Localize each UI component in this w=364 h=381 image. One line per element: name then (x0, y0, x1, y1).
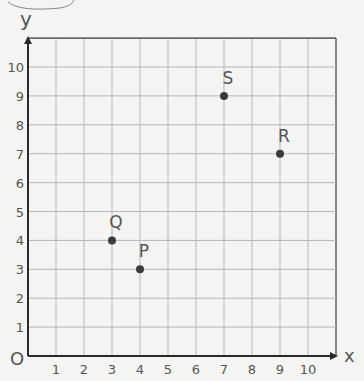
y-tick-label: 7 (16, 147, 24, 162)
x-tick-label: 3 (108, 362, 116, 377)
y-tick-label: 9 (16, 89, 24, 104)
x-tick-label: 2 (80, 362, 88, 377)
y-tick-label: 3 (16, 262, 24, 277)
point-label-q: Q (109, 212, 122, 232)
x-tick-label: 9 (276, 362, 284, 377)
point-label-r: R (278, 126, 290, 146)
y-tick-label: 8 (16, 118, 24, 133)
x-tick-label: 6 (192, 362, 200, 377)
grid-lines (28, 38, 336, 356)
y-axis-label: y (20, 7, 32, 31)
y-tick-label: 4 (16, 233, 24, 248)
pencil-scribble (8, 0, 74, 9)
x-axis-label: x (344, 345, 355, 366)
x-tick-label: 7 (220, 362, 228, 377)
point-q (108, 236, 116, 244)
x-tick-label: 8 (248, 362, 256, 377)
x-tick-label: 5 (164, 362, 172, 377)
x-tick-label: 1 (52, 362, 60, 377)
point-s (220, 92, 228, 100)
y-tick-label: 6 (16, 176, 24, 191)
point-label-s: S (223, 68, 234, 88)
y-tick-label: 10 (7, 60, 24, 75)
tick-labels: 1234567891012345678910 (7, 60, 316, 377)
x-tick-label: 10 (300, 362, 317, 377)
coordinate-plane: 1234567891012345678910 PQRS x y O (0, 0, 364, 381)
x-tick-label: 4 (136, 362, 144, 377)
data-points: PQRS (108, 68, 290, 273)
point-r (276, 150, 284, 158)
axes (24, 36, 338, 360)
point-p (136, 265, 144, 273)
y-tick-label: 5 (16, 205, 24, 220)
origin-label: O (10, 348, 24, 369)
y-tick-label: 2 (16, 291, 24, 306)
y-tick-label: 1 (16, 320, 24, 335)
point-label-p: P (139, 241, 149, 261)
